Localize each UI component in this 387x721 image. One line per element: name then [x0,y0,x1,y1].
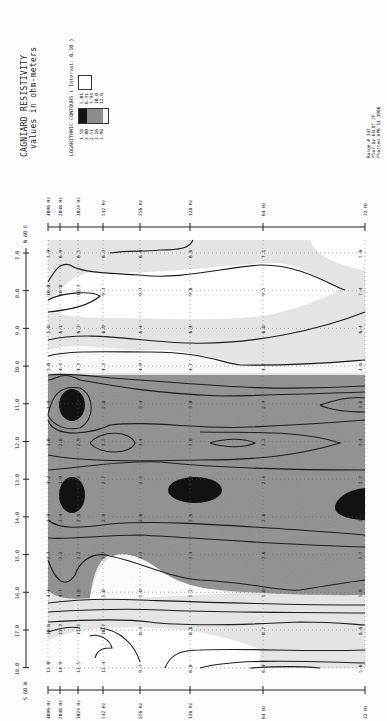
grid-value-label: 3.0 [188,438,193,446]
grid-value-label: 2.4 [58,513,63,521]
grid-value-label: 5.9 [46,250,51,258]
grid-value-label: 5.2 [188,589,193,597]
grid-value-label: 4.3 [76,363,81,371]
grid-value-label: 1.9 [46,400,51,408]
grid-value-label: 6.3 [76,325,81,333]
grid-value-label: 4.8 [76,589,81,597]
grid-value-label: 7.4 [358,287,363,295]
grid-value-label: 9.5 [261,287,266,295]
grid-value-label: 9.7 [138,664,143,672]
grid-value-label: 2.6 [76,400,81,408]
grid-value-label: 2.9 [46,513,51,521]
grid-value-label: 3.6 [261,551,266,559]
grid-value-label: 4.9 [138,363,143,371]
grid-value-label: 5.6 [358,664,363,672]
grid-value-label: 6.5 [76,250,81,258]
grid-value-label: 6.8 [261,325,266,333]
grid-value-label: 3.5 [101,438,106,446]
grid-value-label: 3.3 [138,551,143,559]
grid-value-label: 10.3 [76,285,81,296]
grid-value-label: 8.8 [188,627,193,635]
grid-value-label: 2.6 [358,513,363,521]
grid-value-label: 2.9 [101,513,106,521]
grid-value-label: 6.9 [58,250,63,258]
grid-value-label: 3.7 [46,551,51,559]
grid-value-label: 13.0 [46,662,51,673]
grid-value-label: 2.9 [261,400,266,408]
grid-value-label: 3.7 [101,551,106,559]
grid-value-label: 3.0 [188,400,193,408]
grid-value-label: 6.1 [58,325,63,333]
grid-value-label: 4.7 [58,589,63,597]
grid-value-label: 11.3 [58,624,63,635]
grid-value-label: 6.9 [101,325,106,333]
contour-plot: 5.96.96.56.36.46.87.15.610.010.810.39.39… [0,0,387,721]
grid-value-label: 5.0 [101,589,106,597]
grid-value-label: 12.4 [101,662,106,673]
grid-value-label: 6.4 [138,325,143,333]
grid-value-label: 2.5 [138,476,143,484]
grid-value-label: 2.7 [101,476,106,484]
grid-value-label: 9.3 [101,287,106,295]
grid-value-label: 3.4 [358,438,363,446]
grid-value-label: 14.9 [58,662,63,673]
grid-value-label: 9.7 [138,287,143,295]
grid-value-label: 4.7 [261,363,266,371]
grid-value-label: 6.4 [358,325,363,333]
grid-value-label: 1.7 [58,400,63,408]
grid-value-label: 3.0 [46,438,51,446]
grid-value-label: 6.3 [101,250,106,258]
grid-value-label: 5.0 [358,589,363,597]
grid-value-label: 5.6 [358,250,363,258]
grid-value-label: 7.1 [261,250,266,258]
grid-value-label: 10.0 [46,285,51,296]
grid-value-label: 6.4 [188,325,193,333]
grid-value-label: 4.7 [188,363,193,371]
grid-value-label: 2.8 [76,513,81,521]
grid-value-label: 11.5 [76,662,81,673]
grid-value-label: 4.4 [46,589,51,597]
grid-value-label: 6.4 [138,250,143,258]
grid-value-label: 4.8 [358,363,363,371]
grid-value-label: 6.4 [261,664,266,672]
grid-value-label: 6.8 [188,250,193,258]
grid-value-label: 10.8 [46,624,51,635]
grid-value-label: 10.8 [58,285,63,296]
grid-value-label: 3.7 [358,551,363,559]
grid-value-label: 5.0 [46,363,51,371]
grid-value-label: 3.4 [188,551,193,559]
grid-value-label: 3.2 [46,476,51,484]
grid-value-label: 5.0 [261,589,266,597]
grid-value-label: 1.9 [58,476,63,484]
grid-value-label: 2.9 [76,438,81,446]
grid-value-label: 10.7 [101,624,106,635]
grid-value-label: 8.7 [261,627,266,635]
grid-value-label: 2.4 [76,476,81,484]
grid-value-label: 5.8 [46,325,51,333]
grid-value-label: 2.6 [188,513,193,521]
grid-value-label: 8.3 [138,627,143,635]
grid-value-label: 3.4 [138,400,143,408]
grid-value-label: 3.2 [76,551,81,559]
grid-value-label: 2.8 [101,400,106,408]
grid-value-label: 2.8 [58,438,63,446]
grid-value-label: 6.8 [188,664,193,672]
grid-value-label: 3.4 [138,438,143,446]
grid-value-label: 11.5 [76,624,81,635]
grid-value-label: 2.2 [358,476,363,484]
grid-value-label: 9.6 [188,287,193,295]
grid-value-label: 3.2 [58,551,63,559]
grid-value-label: 3.2 [261,438,266,446]
grid-value-label: 4.3 [101,363,106,371]
grid-value-label: 2.4 [261,476,266,484]
grid-value-label: 8.8 [358,627,363,635]
grid-value-label: 2.8 [138,513,143,521]
grid-value-label: 5.0 [138,589,143,597]
grid-value-label: 2.8 [261,513,266,521]
grid-value-label: 4.3 [58,363,63,371]
grid-value-label: 2.0 [188,476,193,484]
grid-value-label: 3.8 [358,400,363,408]
